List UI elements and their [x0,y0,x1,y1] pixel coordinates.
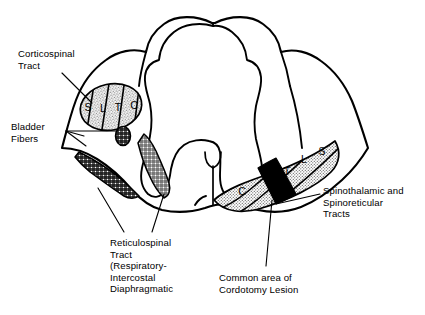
stt-segment-S: S [318,145,325,157]
bladder-fiber-spot [116,127,131,146]
stt-segment-C: C [238,185,246,197]
bladder-fibers-label: Bladder Fibers [11,121,45,144]
cst-segment-L: L [100,102,106,114]
spinal-cord-diagram: S L T C S L T C [0,0,425,315]
cst-segment-T: T [115,101,122,113]
reticulospinal-tract-label: Reticulospinal Tract (Respiratory- Inter… [110,237,173,295]
leader-reticulospinal-left [98,188,124,232]
cst-segment-S: S [84,101,91,113]
cst-segment-C: C [130,99,138,111]
cordotomy-lesion-label: Common area of Cordotomy Lesion [219,272,298,295]
stt-segment-L: L [301,153,307,165]
corticospinal-tract-label: Corticospinal Tract [18,48,75,71]
spinothalamic-tracts-label: Spinothalamic and Spinoreticular Tracts [323,185,404,220]
